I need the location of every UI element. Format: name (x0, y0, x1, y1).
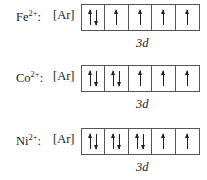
orbital-box (82, 66, 105, 91)
spin-up-arrow-icon (187, 10, 188, 25)
orbital-box (129, 5, 152, 30)
spin-up-arrow-icon (116, 10, 117, 25)
spin-up-arrow-icon (163, 10, 164, 25)
ion-label: Fe2+: (16, 8, 41, 25)
spin-up-arrow-icon (90, 10, 91, 25)
orbital-box (82, 129, 105, 154)
spin-up-arrow-icon (140, 71, 141, 86)
orbital-box (176, 66, 199, 91)
spin-up-arrow-icon (90, 71, 91, 86)
spin-down-arrow-icon (119, 71, 120, 86)
orbital-box (82, 5, 105, 30)
spin-up-arrow-icon (113, 71, 114, 86)
ion-label: Co2+: (16, 69, 43, 86)
spin-up-arrow-icon (187, 71, 188, 86)
core-config: [Ar] (53, 69, 75, 84)
ni-row: Ni2+: [Ar] 3d (0, 128, 207, 178)
subshell-label: 3d (136, 36, 149, 51)
spin-up-arrow-icon (113, 134, 114, 149)
orbital-box (105, 5, 128, 30)
fe-row: Fe2+: [Ar] 3d (0, 4, 207, 54)
spin-up-arrow-icon (163, 134, 164, 149)
subshell-label: 3d (136, 97, 149, 112)
orbital-boxes (81, 128, 200, 155)
co-row: Co2+: [Ar] 3d (0, 65, 207, 115)
core-config: [Ar] (53, 132, 75, 147)
orbital-boxes (81, 65, 200, 92)
orbital-box (152, 129, 175, 154)
spin-down-arrow-icon (119, 134, 120, 149)
spin-up-arrow-icon (187, 134, 188, 149)
spin-up-arrow-icon (163, 71, 164, 86)
spin-down-arrow-icon (96, 134, 97, 149)
orbital-box (129, 66, 152, 91)
orbital-boxes (81, 4, 200, 31)
spin-up-arrow-icon (137, 134, 138, 149)
core-config: [Ar] (53, 8, 75, 23)
spin-down-arrow-icon (96, 10, 97, 25)
orbital-box (129, 129, 152, 154)
subshell-label: 3d (136, 160, 149, 175)
orbital-box (176, 5, 199, 30)
ion-label: Ni2+: (16, 132, 41, 149)
spin-up-arrow-icon (140, 10, 141, 25)
spin-down-arrow-icon (143, 134, 144, 149)
orbital-box (152, 5, 175, 30)
orbital-box (105, 129, 128, 154)
orbital-box (105, 66, 128, 91)
orbital-box (176, 129, 199, 154)
spin-up-arrow-icon (90, 134, 91, 149)
spin-down-arrow-icon (96, 71, 97, 86)
orbital-box (152, 66, 175, 91)
